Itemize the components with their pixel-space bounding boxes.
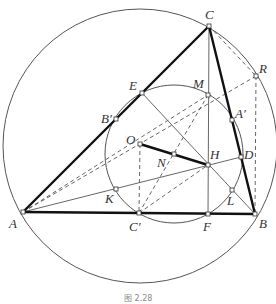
figure-caption: 图 2.28 xyxy=(124,294,152,303)
label-L: L xyxy=(226,193,234,208)
dashed-A-M xyxy=(23,95,208,212)
point-Ap xyxy=(230,118,234,122)
dashed-Cp-H xyxy=(139,165,208,213)
label-R: R xyxy=(258,61,267,76)
point-L xyxy=(230,188,234,192)
point-Bp xyxy=(114,117,118,121)
label-A: A xyxy=(8,216,17,231)
label-N: N xyxy=(156,155,167,170)
label-Ap: A′ xyxy=(234,106,246,121)
dashed-O-Cp xyxy=(139,144,140,213)
label-O: O xyxy=(126,132,136,147)
geometry-diagram: A B C O H N M E B′ A′ D K L C′ F R 图 2.2… xyxy=(0,0,276,304)
label-M: M xyxy=(192,76,205,91)
point-O xyxy=(138,142,142,146)
label-Bp: B′ xyxy=(101,111,112,126)
point-D xyxy=(239,155,243,159)
point-F xyxy=(206,212,210,216)
point-R xyxy=(254,74,258,78)
point-K xyxy=(114,187,118,191)
label-C: C xyxy=(205,7,214,22)
point-H xyxy=(206,163,210,167)
point-Cp xyxy=(137,211,141,215)
point-E xyxy=(140,91,144,95)
altitude-CF xyxy=(208,26,209,214)
label-H: H xyxy=(209,147,220,162)
label-D: D xyxy=(243,147,254,162)
point-M xyxy=(206,93,210,97)
point-A xyxy=(21,210,25,214)
label-K: K xyxy=(104,191,115,206)
label-B: B xyxy=(259,216,267,231)
point-C xyxy=(207,24,211,28)
label-F: F xyxy=(202,219,212,234)
label-E: E xyxy=(128,78,137,93)
dashed-R-B xyxy=(255,76,256,214)
label-Cp: C′ xyxy=(129,219,141,234)
point-B xyxy=(253,212,257,216)
point-N xyxy=(172,152,176,156)
